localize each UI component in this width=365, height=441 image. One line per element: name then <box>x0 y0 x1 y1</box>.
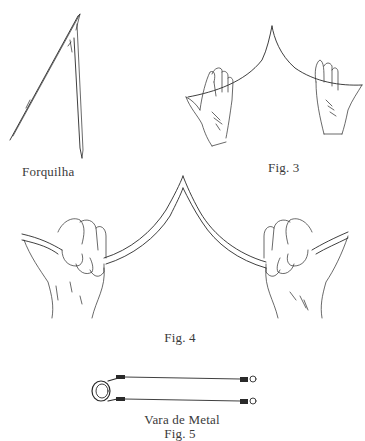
illustration-canvas <box>0 0 365 441</box>
fig4-caption: Fig. 4 <box>164 330 196 346</box>
forquilha-drawing <box>10 14 83 158</box>
fig3-caption: Fig. 3 <box>268 160 300 176</box>
fig4-drawing <box>22 176 348 318</box>
forquilha-caption: Forquilha <box>22 164 74 180</box>
fig3-drawing <box>186 26 362 146</box>
fig5-drawing <box>92 375 256 404</box>
fig5-caption: Fig. 5 <box>164 426 196 441</box>
